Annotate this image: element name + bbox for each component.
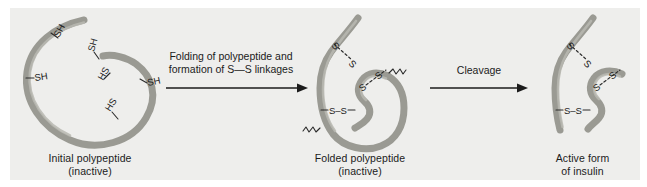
insulin-disulfide-label-3: S–S — [564, 105, 582, 116]
cleavage-marker-upper — [389, 69, 406, 74]
insulin-disulfide-label-1-s2: S — [582, 58, 594, 70]
arrow-cleavage-head — [517, 84, 528, 93]
cleavage-marker-lower — [303, 127, 320, 132]
caption-folded-polypeptide: Folded polypeptide (inactive) — [290, 152, 430, 178]
caption-active-insulin: Active form of insulin — [525, 152, 640, 178]
arrow-folding-label: Folding of polypeptide and formation of … — [158, 50, 304, 76]
arrow-cleavage-label: Cleavage — [434, 64, 524, 77]
thiol-label-2: SH — [34, 70, 49, 83]
initial-thiol-group-5: SH — [140, 74, 161, 88]
caption-initial-polypeptide: Initial polypeptide (inactive) — [20, 152, 160, 178]
disulfide-label-3: S–S — [329, 105, 347, 116]
arrow-folding-graphic — [166, 84, 308, 93]
initial-thiol-group-6: HS — [102, 96, 118, 119]
initial-thiol-group-4: HS — [95, 65, 111, 82]
initial-thiol-group-3: SH — [85, 37, 99, 59]
insulin-a-chain — [588, 71, 622, 129]
arrow-cleavage-graphic — [430, 84, 528, 93]
insulin-disulfide-1: S S — [565, 40, 594, 70]
arrow-folding-head — [297, 84, 308, 93]
thiol-label-3: SH — [85, 37, 99, 53]
folded-disulfide-2: S S — [357, 69, 386, 94]
thiol-label-4: HS — [95, 65, 111, 82]
thiol-label-5: SH — [146, 74, 161, 88]
initial-polypeptide-structure: SH SH SH HS SH HS — [26, 20, 161, 145]
active-insulin-structure: S S S S S–S — [555, 18, 622, 130]
folded-polypeptide-structure: S S S S S–S — [303, 18, 406, 149]
insulin-folding-figure: SH SH SH HS SH HS — [0, 0, 647, 187]
thiol-label-6: HS — [102, 96, 118, 113]
folded-disulfide-1: S S — [330, 40, 359, 70]
disulfide-label-1-s2: S — [347, 58, 359, 70]
